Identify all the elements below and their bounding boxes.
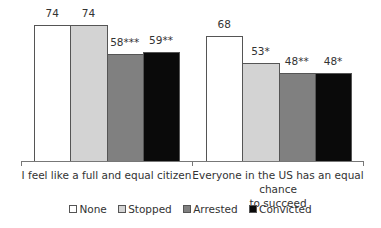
legend-swatch-none — [69, 205, 77, 213]
x-axis-tick-left — [21, 161, 22, 166]
x-axis-tick-middle — [192, 161, 193, 166]
value-label-convicted-group-1: 59** — [136, 34, 186, 46]
legend-item-convicted: Convicted — [249, 203, 312, 215]
value-label-convicted-group-2: 48* — [308, 55, 358, 67]
legend-label-stopped: Stopped — [128, 203, 172, 215]
bar-convicted-group-1 — [143, 52, 180, 162]
legend-label-arrested: Arrested — [193, 203, 238, 215]
legend-swatch-arrested — [183, 205, 191, 213]
legend: None Stopped Arrested Convicted — [0, 203, 381, 215]
category-label-2-line1: Everyone in the US has an equal chance — [192, 168, 364, 196]
legend-label-convicted: Convicted — [259, 203, 312, 215]
legend-swatch-stopped — [118, 205, 126, 213]
bar-none-group-1 — [34, 25, 71, 162]
legend-swatch-convicted — [249, 205, 257, 213]
category-label-1-line1: I feel like a full and equal citizen — [21, 168, 192, 182]
value-label-stopped-group-1: 74 — [63, 7, 113, 19]
legend-item-none: None — [69, 203, 106, 215]
bar-stopped-group-2 — [242, 63, 279, 162]
bar-convicted-group-2 — [315, 73, 352, 162]
bar-chart: 747458***59**6853*48**48* I feel like a … — [0, 0, 381, 228]
value-label-none-group-2: 68 — [199, 18, 249, 30]
bar-arrested-group-1 — [107, 54, 144, 162]
legend-item-stopped: Stopped — [118, 203, 172, 215]
bar-arrested-group-2 — [279, 73, 316, 162]
category-label-1: I feel like a full and equal citizen — [21, 168, 192, 182]
x-axis-tick-right — [363, 161, 364, 166]
legend-label-none: None — [79, 203, 106, 215]
legend-item-arrested: Arrested — [183, 203, 238, 215]
